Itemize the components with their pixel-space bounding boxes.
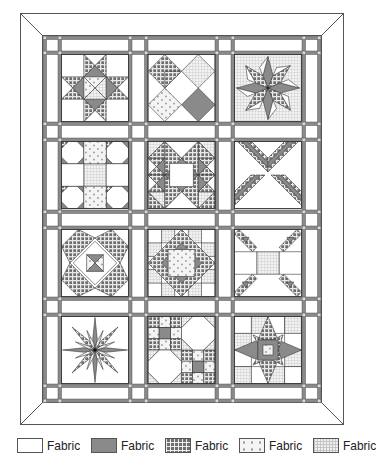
legend-label: Fabric [195,438,224,453]
swatch-cross-fabric [313,438,339,453]
quilt-block-octagon-nine-patch [148,317,215,384]
quilt-block-snowball-nine-patch [62,142,129,209]
quilt-block-pinwheel-square [62,230,129,297]
fabric-legend: Fabric Fabric Fabric Fabric Fabric [17,437,381,454]
quilt-block-diagonal-strip-x [235,142,302,209]
legend-item-check: Fabric [165,438,239,453]
legend-label: Fabric [121,438,150,453]
legend-item-dot: Fabric [239,438,313,453]
legend-label: Fabric [269,438,298,453]
legend-item-white: Fabric [17,438,91,453]
swatch-white-fabric [17,438,43,453]
swatch-check-fabric [165,438,191,453]
swatch-gray-fabric [91,438,117,453]
quilt-block-eight-point-radiant-star [62,317,129,384]
quilt-diagram [0,0,360,430]
quilt-block-lemoyne-star [235,55,302,122]
quilt-block-eight-point-star [62,55,129,122]
quilt-block-sawtooth-star [235,317,302,384]
legend-label: Fabric [343,438,372,453]
legend-item-gray: Fabric [91,438,165,453]
quilt-block-diamond-squares [148,55,215,122]
legend-label: Fabric [47,438,76,453]
quilt-block-star-with-square-center [148,142,215,209]
legend-item-cross: Fabric [313,438,381,453]
quilt-block-square-in-star [148,230,215,297]
quilt-block-corner-arrows [235,230,302,297]
swatch-dot-fabric [239,438,265,453]
